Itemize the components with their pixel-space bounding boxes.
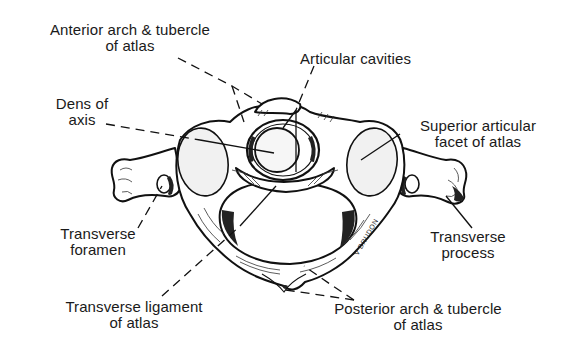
label-transverse-foramen: Transverse foramen [50,226,146,258]
label-transverse-foramen-line1: Transverse [50,226,146,242]
right-transverse-process [396,148,466,204]
label-anterior-arch-line1: Anterior arch & tubercle [36,22,224,38]
vertebral-foramen [220,182,357,264]
label-posterior-arch-line2: of atlas [318,317,518,333]
label-transverse-process: Transverse process [420,229,516,261]
label-posterior-arch: Posterior arch & tubercle of atlas [318,301,518,333]
label-transverse-process-line2: process [420,245,516,261]
left-transverse-process [112,148,182,201]
label-dens-of-axis: Dens of axis [46,96,118,128]
label-transverse-ligament: Transverse ligament of atlas [44,299,224,331]
label-transverse-ligament-line2: of atlas [44,315,224,331]
label-superior-facet-line2: facet of atlas [402,134,554,150]
label-transverse-ligament-line1: Transverse ligament [44,299,224,315]
dens-of-axis [255,128,299,172]
label-transverse-foramen-line2: foramen [50,242,146,258]
label-superior-articular-facet: Superior articular facet of atlas [402,118,554,150]
label-articular-cavities-line1: Articular cavities [300,51,411,67]
label-posterior-arch-line1: Posterior arch & tubercle [318,301,518,317]
label-transverse-process-line1: Transverse [420,229,516,245]
label-dens-line1: Dens of [46,96,118,112]
label-anterior-arch-line2: of atlas [36,38,224,54]
anterior-tubercle [255,98,300,114]
label-articular-cavities: Articular cavities [300,51,411,67]
label-superior-facet-line1: Superior articular [402,118,554,134]
label-dens-line2: axis [46,112,118,128]
label-anterior-arch: Anterior arch & tubercle of atlas [36,22,224,54]
right-transverse-foramen [405,175,419,193]
